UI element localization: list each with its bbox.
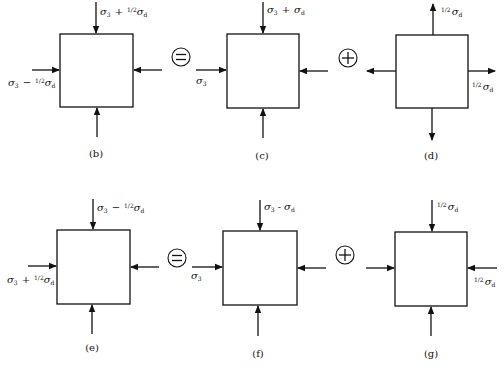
element-box [57,230,130,304]
element-box [395,232,467,306]
label-top: σ3+1/2σd [100,6,148,18]
caption-b: (b) [89,148,103,159]
label-top: 1/2σd [437,201,458,213]
element-box [60,34,133,107]
label-left: σ3−1/2σd [8,77,56,89]
label-top: 1/2σd [441,6,462,18]
caption-d: (d) [424,150,438,161]
panel-e: σ3−1/2σd σ3+1/2σd (e) [7,199,159,353]
panel-f: σ3-σd σ3 (f) [191,200,326,359]
caption-g: (g) [424,348,438,359]
label-top: σ3+σd [267,4,305,16]
label-top: σ3−1/2σd [97,202,145,214]
panel-c: σ3+σd σ3 (c) [196,2,328,161]
caption-c: (c) [255,150,269,161]
plus-operator [339,49,357,67]
label-right: 1/2σd [474,276,495,288]
equals-operator [172,48,190,66]
label-left: σ3 [196,75,207,87]
element-box [227,34,299,108]
panel-b: σ3+1/2σd σ3−1/2σd (b) [8,2,162,159]
label-top: σ3-σd [264,201,295,213]
element-box [223,231,297,305]
stress-decomposition-diagram: σ3+1/2σd σ3−1/2σd (b) σ3+σd σ3 (c) 1/2σd… [0,0,504,370]
label-left: σ3 [191,270,202,282]
plus-operator [336,246,354,264]
element-box [396,35,468,108]
equals-operator [168,249,186,267]
caption-f: (f) [252,348,264,359]
caption-e: (e) [85,342,99,353]
label-left: σ3+1/2σd [7,274,55,286]
panel-d: 1/2σd 1/2σd (d) [367,4,495,161]
label-right: 1/2σd [472,81,493,93]
panel-g: 1/2σd 1/2σd (g) [366,200,497,359]
